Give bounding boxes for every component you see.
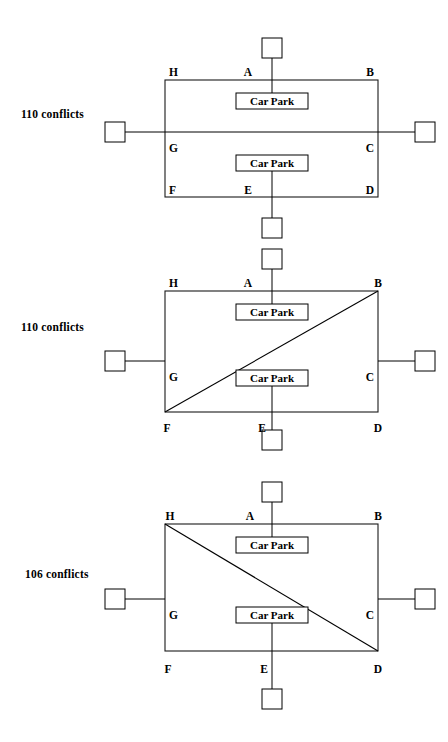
carpark-label-bottom-3: Car Park: [250, 609, 295, 621]
conflicts-label-2: 110 conflicts: [21, 321, 84, 333]
terminal-left-3[interactable]: [105, 589, 125, 609]
node-label-D-1: D: [366, 184, 374, 196]
terminal-bottom-3[interactable]: [262, 689, 282, 709]
carpark-label-top-2: Car Park: [250, 306, 295, 318]
diagram-layout-1: 110 conflicts Car Park Car Park: [0, 0, 448, 240]
diagram-layout-2: 110 conflicts Car Park Car Park: [0, 240, 448, 470]
conflicts-label-3: 106 conflicts: [25, 568, 89, 580]
terminal-top-2[interactable]: [262, 249, 282, 269]
terminal-bottom-1[interactable]: [262, 218, 282, 238]
node-label-E-3: E: [260, 663, 268, 675]
carpark-label-top-3: Car Park: [250, 539, 295, 551]
carpark-label-bottom-2: Car Park: [250, 372, 295, 384]
node-label-D-3: D: [374, 663, 382, 675]
conflicts-label-1: 110 conflicts: [21, 108, 84, 120]
diagram-2-canvas: Car Park Car Park H A B G C F E D: [0, 240, 448, 470]
node-label-H-3: H: [166, 510, 175, 522]
carpark-label-bottom-1: Car Park: [250, 157, 295, 169]
terminal-top-3[interactable]: [262, 482, 282, 502]
node-label-H-2: H: [169, 277, 178, 289]
node-label-G-1: G: [169, 142, 178, 154]
terminal-right-2[interactable]: [415, 351, 435, 371]
node-label-G-3: G: [169, 609, 178, 621]
node-label-C-3: C: [366, 609, 374, 621]
node-label-B-1: B: [366, 66, 374, 78]
carpark-label-top-1: Car Park: [250, 95, 295, 107]
node-label-B-2: B: [374, 277, 382, 289]
node-label-D-2: D: [374, 422, 382, 434]
terminal-right-3[interactable]: [415, 589, 435, 609]
node-label-F-2: F: [163, 422, 170, 434]
diagram-1-canvas: Car Park Car Park H A B G C F E D: [0, 0, 448, 240]
node-label-B-3: B: [374, 510, 382, 522]
node-label-A-3: A: [246, 510, 255, 522]
node-label-F-1: F: [169, 184, 176, 196]
node-label-C-1: C: [366, 142, 374, 154]
node-label-C-2: C: [366, 371, 374, 383]
diagram-page: 110 conflicts Car Park Car Park: [0, 0, 448, 742]
node-label-E-2: E: [258, 422, 266, 434]
node-label-H-1: H: [169, 66, 178, 78]
node-label-A-2: A: [244, 277, 253, 289]
terminal-left-1[interactable]: [105, 122, 125, 142]
terminal-top-1[interactable]: [262, 38, 282, 58]
terminal-left-2[interactable]: [105, 351, 125, 371]
terminal-right-1[interactable]: [415, 122, 435, 142]
node-label-G-2: G: [169, 371, 178, 383]
node-label-F-3: F: [164, 663, 171, 675]
node-label-A-1: A: [244, 66, 253, 78]
diagram-3-canvas: Car Park Car Park H A B G C F E D: [0, 470, 448, 742]
node-label-E-1: E: [244, 184, 252, 196]
diagram-layout-3: 106 conflicts Car Park Car Park: [0, 470, 448, 742]
